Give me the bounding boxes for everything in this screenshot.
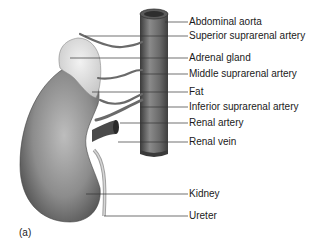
kidney-anatomy-figure: Abdominal aorta Superior suprarenal arte…	[0, 0, 320, 246]
label-renal-vein: Renal vein	[189, 136, 236, 147]
label-renal-artery: Renal artery	[189, 117, 243, 128]
label-adrenal-gland: Adrenal gland	[189, 52, 251, 63]
label-middle-suprarenal-artery: Middle suprarenal artery	[189, 68, 297, 79]
panel-label: (a)	[19, 227, 31, 238]
label-abdominal-aorta: Abdominal aorta	[189, 16, 262, 27]
renal-vein	[92, 120, 116, 142]
label-ureter: Ureter	[189, 210, 217, 221]
abdominal-aorta	[140, 9, 168, 157]
label-fat: Fat	[189, 86, 203, 97]
label-inferior-suprarenal-artery: Inferior suprarenal artery	[189, 101, 299, 112]
label-kidney: Kidney	[189, 188, 220, 199]
label-superior-suprarenal-artery: Superior suprarenal artery	[189, 30, 305, 41]
